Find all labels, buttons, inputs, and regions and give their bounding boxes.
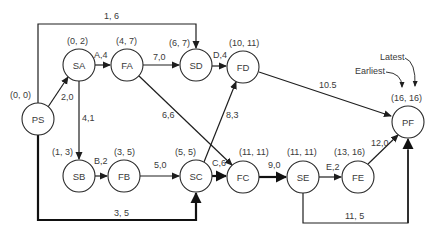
svg-text:PS: PS [32,114,45,125]
activity-network-diagram: 1, 6 2,0 A,4 4,1 7,0 6,6 D,4 10.5 B,2 5,… [0,0,436,237]
node-fb: FB (3, 5) [108,147,140,192]
node-fb-times: (3, 5) [114,147,135,157]
edge-labels: 1, 6 2,0 A,4 4,1 7,0 6,6 D,4 10.5 B,2 5,… [61,11,389,221]
edge-fd-pf [259,72,391,116]
node-fa: FA (4, 7) [111,36,143,81]
node-fd-times: (10, 11) [229,38,259,48]
label-fa-sd: 7,0 [153,52,166,62]
label-fa-fc: 6,6 [162,110,175,120]
node-pf-times: (16, 16) [391,93,422,103]
node-sb: SB (1, 3) [52,147,95,192]
svg-text:FA: FA [121,60,133,71]
label-fc-se: 9,0 [268,160,281,170]
node-se-times: (11, 11) [287,147,317,157]
node-pf: PF (16, 16) [391,93,424,138]
legend-earliest-arrow [386,72,402,87]
legend: Latest Earliest [355,52,415,87]
svg-text:FD: FD [237,62,250,73]
label-sa-sb: 4,1 [82,113,95,123]
label-sc-fd: 8,3 [226,110,239,120]
node-se: SE (11, 11) [287,147,319,193]
label-sa-fa: A,4 [94,50,108,60]
node-sb-times: (1, 3) [52,147,73,157]
node-sd-times: (6, 7) [169,38,190,48]
svg-text:FB: FB [118,171,130,182]
node-sa: SA (0, 2) [63,36,95,81]
node-fe: FE (13, 16) [334,147,374,193]
label-fb-sc: 5,0 [154,160,167,170]
node-ps: PS (0, 0) [10,90,54,135]
node-fa-times: (4, 7) [116,36,137,46]
label-ps-sd: 1, 6 [104,11,119,21]
label-se-fe: E,2 [326,162,340,172]
label-sb-fb: B,2 [94,156,108,166]
svg-text:FE: FE [352,172,364,183]
label-fe-pf: 12,0 [371,138,389,148]
node-ps-times: (0, 0) [10,90,31,100]
legend-latest: Latest [380,52,405,62]
node-fc-times: (11, 11) [239,147,269,157]
node-fc: FC (11, 11) [227,147,269,193]
svg-text:SE: SE [297,172,310,183]
svg-text:SD: SD [189,60,202,71]
legend-earliest: Earliest [355,66,386,76]
node-sd: SD (6, 7) [169,38,212,81]
svg-text:FC: FC [237,172,250,183]
label-sd-fd: D,4 [213,50,227,60]
svg-text:PF: PF [402,117,414,128]
node-fe-times: (13, 16) [334,147,365,157]
svg-text:SB: SB [73,171,86,182]
label-fd-pf: 10.5 [319,80,337,90]
label-ps-sc: 3, 5 [114,208,129,218]
svg-text:SC: SC [189,171,202,182]
node-sa-times: (0, 2) [67,36,88,46]
node-sc: SC (5, 5) [175,147,212,192]
label-se-pf: 11, 5 [345,211,364,221]
legend-latest-arrow [405,58,415,86]
node-sc-times: (5, 5) [175,147,196,157]
label-sc-fc: C,6 [212,158,226,168]
label-ps-sa: 2,0 [61,92,74,102]
node-fd: FD (10, 11) [227,38,259,83]
edge-sc-fd [204,82,236,162]
svg-text:SA: SA [73,60,86,71]
